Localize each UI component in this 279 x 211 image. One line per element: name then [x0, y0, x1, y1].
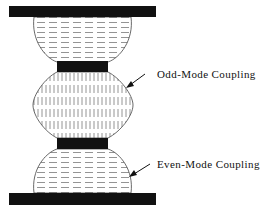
even-mode-arrow-icon: [129, 164, 150, 177]
bottom-ground-plane: [9, 193, 156, 205]
middle-field-region: [33, 72, 133, 138]
upper-strip-conductor: [57, 61, 108, 72]
lower-strip-conductor: [57, 138, 108, 149]
even-mode-label: Even-Mode Coupling: [157, 158, 260, 170]
bottom-field-region: [34, 149, 132, 193]
coupling-diagram: [0, 0, 279, 211]
odd-mode-label: Odd-Mode Coupling: [157, 68, 256, 80]
odd-mode-arrow-icon: [126, 74, 145, 88]
top-field-region: [34, 17, 132, 62]
top-ground-plane: [9, 6, 156, 17]
